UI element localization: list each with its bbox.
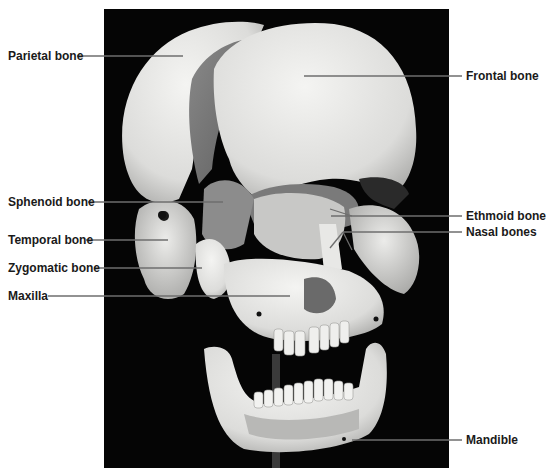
label-zygomatic-bone: Zygomatic bone <box>8 261 100 275</box>
label-temporal-bone: Temporal bone <box>8 233 93 247</box>
label-ethmoid-bone: Ethmoid bone <box>466 209 546 223</box>
label-frontal-bone: Frontal bone <box>466 69 539 83</box>
exploded-skull-illustration <box>104 9 449 468</box>
skull-photograph <box>104 9 449 468</box>
frontal-bone-shape <box>214 23 417 204</box>
label-maxilla: Maxilla <box>8 289 48 303</box>
label-sphenoid-bone: Sphenoid bone <box>8 195 95 209</box>
label-nasal-bones: Nasal bones <box>466 225 537 239</box>
label-mandible: Mandible <box>466 433 518 447</box>
maxilla-shape <box>224 259 384 341</box>
label-parietal-bone: Parietal bone <box>8 49 83 63</box>
